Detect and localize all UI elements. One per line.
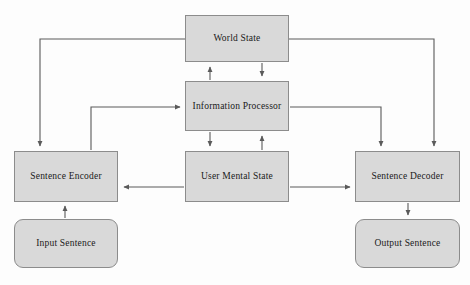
node-label-input-sentence: Input Sentence bbox=[33, 238, 99, 248]
node-label-output-sentence: Output Sentence bbox=[371, 238, 443, 248]
node-input-sentence[interactable]: Input Sentence bbox=[14, 219, 118, 268]
node-label-sentence-encoder: Sentence Encoder bbox=[27, 171, 105, 181]
edge-world-state-to-sentence-encoder bbox=[40, 39, 185, 146]
node-world-state[interactable]: World State bbox=[185, 15, 289, 62]
node-label-sentence-decoder: Sentence Decoder bbox=[368, 171, 446, 181]
node-label-world-state: World State bbox=[210, 33, 263, 43]
node-output-sentence[interactable]: Output Sentence bbox=[355, 219, 460, 268]
edge-world-state-to-sentence-decoder bbox=[289, 39, 434, 146]
node-sentence-encoder[interactable]: Sentence Encoder bbox=[14, 151, 118, 202]
node-label-information-processor: Information Processor bbox=[190, 101, 285, 111]
edge-information-processor-to-sentence-decoder bbox=[290, 107, 381, 146]
node-label-user-mental-state: User Mental State bbox=[198, 171, 276, 181]
edge-sentence-encoder-to-information-processor bbox=[91, 107, 180, 150]
node-information-processor[interactable]: Information Processor bbox=[185, 81, 289, 131]
node-sentence-decoder[interactable]: Sentence Decoder bbox=[355, 151, 460, 202]
node-user-mental-state[interactable]: User Mental State bbox=[185, 151, 289, 202]
diagram-canvas: World StateInformation ProcessorSentence… bbox=[0, 0, 470, 285]
